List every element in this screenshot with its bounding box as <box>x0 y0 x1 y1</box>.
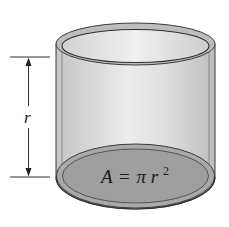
dimension-label-r: r <box>24 108 31 127</box>
arrow-down-icon <box>26 168 32 177</box>
cylinder-diagram: r A = π r 2 <box>0 0 229 227</box>
formula-r: r <box>151 166 159 187</box>
formula-lhs: A <box>99 166 113 187</box>
height-dimension: r <box>10 57 50 177</box>
cylinder-rim <box>56 23 215 65</box>
arrow-up-icon <box>26 58 32 67</box>
formula-equals: = <box>119 166 130 187</box>
rim-inner-ellipse <box>62 30 209 63</box>
area-formula: A = π r 2 <box>99 164 169 187</box>
formula-exponent: 2 <box>163 164 169 178</box>
formula-pi: π <box>136 166 146 187</box>
